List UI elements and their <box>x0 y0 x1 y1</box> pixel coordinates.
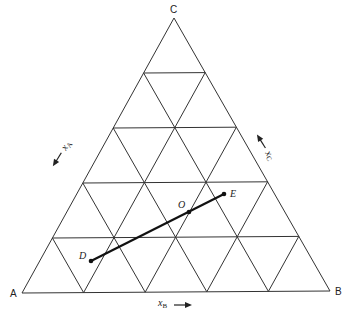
point-e <box>222 192 227 197</box>
axis-label-xa: xA <box>48 138 75 170</box>
edge-bc <box>174 18 330 291</box>
axis-label-xb: xB <box>157 297 192 310</box>
vertex-label-b: B <box>335 286 342 297</box>
svg-text:xA: xA <box>58 138 75 154</box>
edge-ca <box>22 18 174 293</box>
grid-line-c <box>83 182 268 183</box>
axis-label-xc: xC <box>251 131 278 163</box>
point-o <box>187 210 192 215</box>
tie-line-de <box>91 194 224 261</box>
edge-ab <box>22 291 330 293</box>
arrow-up-left-icon <box>254 133 268 150</box>
point-d <box>89 259 94 264</box>
vertex-label-a: A <box>10 288 17 299</box>
point-label-o: O <box>178 199 185 210</box>
svg-text:xB: xB <box>157 297 167 310</box>
arrow-right-icon <box>174 302 192 308</box>
grid-line-b <box>268 236 298 291</box>
point-label-e: E <box>229 188 236 199</box>
point-label-d: D <box>78 250 87 261</box>
vertex-label-c: C <box>170 4 177 15</box>
svg-text:xC: xC <box>261 147 278 163</box>
ternary-diagram: DOE A B C xB xA xC <box>0 0 348 320</box>
grid-line-a <box>52 238 83 293</box>
arrow-down-left-icon <box>50 151 64 168</box>
triangle-grid <box>22 18 330 293</box>
